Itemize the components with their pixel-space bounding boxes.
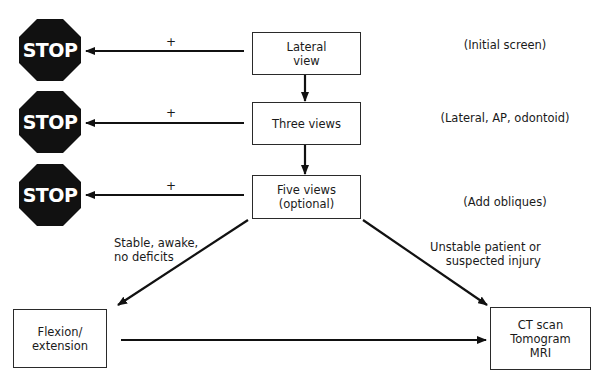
positive-finding-label: + xyxy=(166,180,176,192)
step-five-views: Five views (optional) xyxy=(252,175,361,219)
stop-sign-1: STOP xyxy=(18,18,82,82)
stop-label: STOP xyxy=(18,18,82,82)
cervical-spine-imaging-flowchart: STOP STOP STOP + + + Lateral view Three … xyxy=(0,0,606,381)
step-lateral-view: Lateral view xyxy=(252,32,361,75)
branch-label-unstable: Unstable patient or suspected injury xyxy=(430,240,541,268)
positive-finding-label: + xyxy=(166,36,176,48)
note-lateral-ap-odontoid: (Lateral, AP, odontoid) xyxy=(430,111,580,125)
stop-label: STOP xyxy=(18,163,82,227)
stop-sign-3: STOP xyxy=(18,163,82,227)
branch-label-stable: Stable, awake, no deficits xyxy=(114,236,198,264)
note-initial-screen: (Initial screen) xyxy=(430,38,580,52)
note-add-obliques: (Add obliques) xyxy=(430,195,580,209)
outcome-ct-tomogram-mri: CT scan Tomogram MRI xyxy=(490,307,591,370)
outcome-flexion-extension: Flexion/ extension xyxy=(13,309,107,368)
stop-sign-2: STOP xyxy=(18,90,82,154)
positive-finding-label: + xyxy=(166,107,176,119)
step-three-views: Three views xyxy=(252,102,361,145)
stop-label: STOP xyxy=(18,90,82,154)
